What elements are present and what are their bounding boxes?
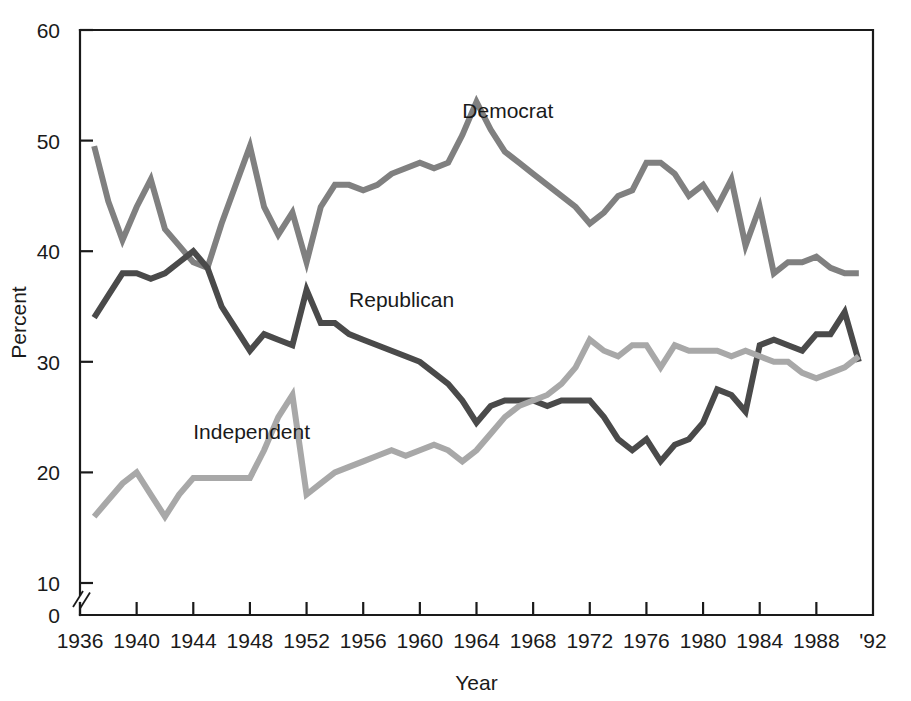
x-axis-tick-label: 1956 — [340, 629, 387, 652]
y-axis-tick-label: 20 — [37, 461, 60, 484]
x-axis-tick-label: 1936 — [57, 629, 104, 652]
y-axis-title: Percent — [7, 286, 30, 359]
x-axis-tick-label: 1980 — [680, 629, 727, 652]
x-axis-tick-label: 1976 — [623, 629, 670, 652]
x-axis-tick-label: 1944 — [170, 629, 217, 652]
x-axis-tick-label: 1952 — [283, 629, 330, 652]
x-axis-tick-label: 1972 — [566, 629, 613, 652]
series-label-republican: Republican — [349, 288, 454, 311]
y-axis-tick-label: 60 — [37, 19, 60, 42]
x-axis-tick-label: 1940 — [113, 629, 160, 652]
x-axis-tick-label: 1948 — [227, 629, 274, 652]
x-axis-tick-label: 1968 — [510, 629, 557, 652]
x-axis-tick-label: 1988 — [793, 629, 840, 652]
x-axis-tick-label: 1984 — [736, 629, 783, 652]
x-axis-tick-label: 1960 — [396, 629, 443, 652]
x-axis-tick-label: '92 — [859, 629, 886, 652]
x-axis-title: Year — [455, 671, 497, 694]
series-label-independent: Independent — [193, 420, 310, 443]
series-label-democrat: Democrat — [462, 99, 553, 122]
series-line-democrat — [94, 102, 859, 273]
y-axis-tick-label: 30 — [37, 351, 60, 374]
y-axis-tick-label: 50 — [37, 130, 60, 153]
chart-figure: 0102030405060193619401944194819521956196… — [0, 0, 911, 701]
party-identification-line-chart: 0102030405060193619401944194819521956196… — [0, 0, 911, 701]
y-axis-tick-label: 10 — [37, 572, 60, 595]
y-axis-tick-label: 0 — [48, 604, 60, 627]
y-axis-tick-label: 40 — [37, 240, 60, 263]
x-axis-tick-label: 1964 — [453, 629, 500, 652]
data-series — [94, 102, 859, 517]
